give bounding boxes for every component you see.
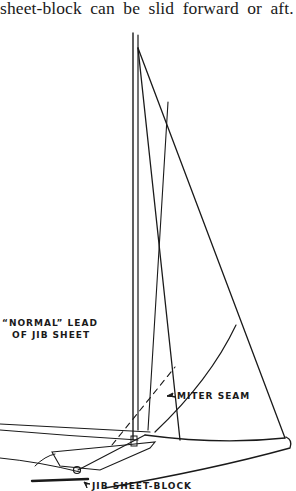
hull-sheer — [0, 430, 138, 440]
normal-lead-label-line2: OF JIB SHEET — [12, 330, 90, 340]
normal-lead-label-line1: “NORMAL” LEAD — [2, 318, 98, 328]
miter-seam-label: MITER SEAM — [177, 391, 250, 401]
jib-foot — [145, 435, 285, 441]
sheet-track — [32, 479, 88, 481]
jib-leech — [138, 48, 285, 438]
jib-sheet-block-label: JIB SHEET-BLOCK — [92, 481, 192, 491]
miter-seam-line — [155, 325, 236, 432]
hull-line-lower — [0, 458, 80, 472]
jib-sheet-block-arrow-icon — [84, 482, 90, 488]
cockpit-coaming — [52, 442, 155, 470]
sail-inner-line — [148, 102, 168, 430]
normal-lead-dashed — [112, 367, 175, 445]
